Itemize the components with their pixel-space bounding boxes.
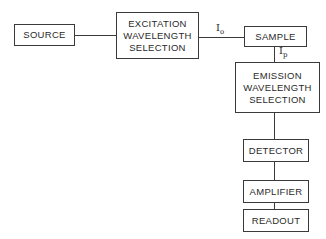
connector-source-excitation: [74, 35, 116, 36]
emission-wavelength-selection-block: EMISSION WAVELENGTH SELECTION: [235, 62, 320, 113]
source-block: SOURCE: [14, 24, 75, 46]
excitation-label-line1: EXCITATION: [128, 18, 187, 30]
emission-label-line3: SELECTION: [249, 94, 306, 106]
source-label: SOURCE: [23, 29, 65, 41]
emitted-intensity-label: Ip: [279, 45, 287, 59]
connector-excitation-sample: [198, 37, 244, 38]
amplifier-block: AMPLIFIER: [243, 180, 309, 203]
emission-label-line2: WAVELENGTH: [243, 82, 311, 94]
connector-amplifier-readout: [274, 202, 275, 209]
connector-sample-emission: [274, 46, 275, 62]
readout-block: READOUT: [243, 209, 309, 232]
sample-label: SAMPLE: [255, 31, 295, 43]
emission-label-line1: EMISSION: [253, 70, 302, 82]
connector-detector-amplifier: [274, 161, 275, 180]
readout-label: READOUT: [252, 215, 301, 227]
incident-intensity-label: Io: [216, 22, 224, 36]
detector-label: DETECTOR: [249, 145, 303, 157]
sample-block: SAMPLE: [244, 26, 307, 47]
detector-block: DETECTOR: [243, 139, 309, 162]
connector-emission-detector: [274, 112, 275, 139]
excitation-label-line3: SELECTION: [129, 42, 186, 54]
excitation-wavelength-selection-block: EXCITATION WAVELENGTH SELECTION: [116, 12, 199, 59]
amplifier-label: AMPLIFIER: [250, 186, 303, 198]
excitation-label-line2: WAVELENGTH: [123, 30, 191, 42]
